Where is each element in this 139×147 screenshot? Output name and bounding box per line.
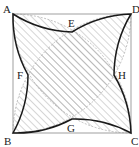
label-b: B (4, 135, 11, 147)
label-c: C (131, 135, 138, 147)
label-h: H (118, 69, 126, 81)
label-d: D (132, 3, 139, 15)
label-a: A (3, 3, 11, 15)
label-f: F (17, 69, 23, 81)
label-g: G (67, 122, 75, 134)
label-e: E (68, 17, 75, 29)
geometry-diagram: A D B C E F G H (0, 0, 139, 147)
